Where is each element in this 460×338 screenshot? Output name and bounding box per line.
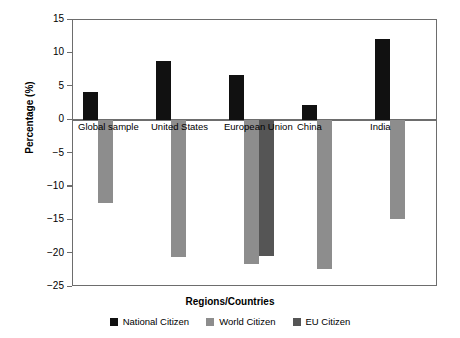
x-axis-title: Regions/Countries [0,296,460,307]
y-tick-mark [67,185,72,186]
y-tick-mark [67,85,72,86]
y-tick-mark [67,219,72,220]
bar [244,120,259,264]
legend-item: National Citizen [110,316,190,327]
category-label: China [297,121,322,133]
y-tick-label: −25 [47,279,64,292]
legend-swatch-icon [206,318,214,326]
legend-swatch-icon [110,318,118,326]
y-tick-label: −10 [47,179,64,192]
bar [83,92,98,120]
y-tick-label: 10 [53,45,64,58]
legend-item: World Citizen [206,316,275,327]
y-tick-label: 5 [58,79,64,92]
y-axis-title: Percentage (%) [24,43,35,193]
y-tick-mark [67,152,72,153]
y-tick-mark [67,52,72,53]
y-tick-mark [67,286,72,287]
bar [259,120,274,256]
legend-item: EU Citizen [293,316,351,327]
category-label: Global sample [78,121,139,133]
bar [390,120,405,219]
bar [156,61,171,120]
bar [375,39,390,120]
y-tick-mark [67,119,72,120]
y-tick-label: −15 [47,212,64,225]
y-tick-label: −5 [53,146,64,159]
y-tick-mark [67,252,72,253]
legend-label: National Citizen [123,316,190,327]
bar [317,120,332,269]
category-label: European Union [224,121,293,133]
bar [171,120,186,257]
legend-label: EU Citizen [306,316,351,327]
legend-swatch-icon [293,318,301,326]
bar-chart: Percentage (%) 151050−5−10−15−20−25 Glob… [0,0,460,338]
bar [302,105,317,120]
category-label: United States [151,121,208,133]
y-tick-label: 15 [53,12,64,25]
plot-inner [73,20,436,285]
chart-legend: National CitizenWorld CitizenEU Citizen [0,316,460,327]
bar [229,75,244,120]
y-tick-mark [67,19,72,20]
plot-area [72,19,437,286]
y-tick-label: −20 [47,246,64,259]
category-label: India [370,121,391,133]
legend-label: World Citizen [219,316,275,327]
y-tick-label: 0 [58,112,64,125]
